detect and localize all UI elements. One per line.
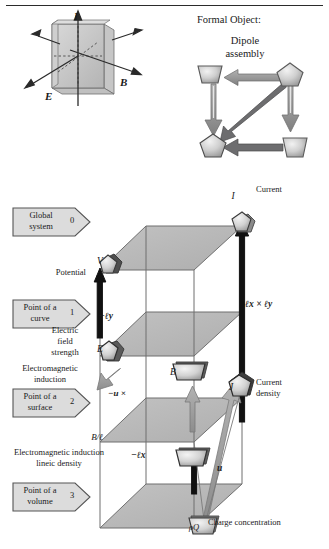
lattice-node-I	[232, 212, 255, 232]
axis-label-B: B	[120, 76, 127, 88]
node-symbol-E: E	[93, 344, 107, 355]
dipole-arrow-top	[224, 70, 283, 86]
caption-current-density-line1: Current	[256, 378, 282, 388]
dipole-arrow-right	[282, 84, 299, 132]
caption-current-density-line2: density	[256, 389, 281, 399]
em-slab-figure	[8, 10, 168, 120]
dipole-node-br	[283, 138, 307, 157]
edge-arrow-E-to-V	[94, 268, 106, 338]
formal-object-heading: Formal Object:	[197, 14, 261, 26]
edge-label-neg-ly: −ℓy	[99, 311, 113, 322]
level-tag-3-line2: volume	[13, 497, 67, 507]
node-symbol-rhoQ: ρQ	[184, 523, 204, 533]
dipole-assembly-figure	[190, 62, 315, 162]
dipole-arrow-left	[205, 84, 222, 136]
node-symbol-B: B	[166, 367, 180, 378]
axis-label-I: I	[74, 11, 78, 22]
edge-label-u: u	[217, 463, 222, 474]
caption-potential: Potential	[28, 268, 86, 278]
edge-arrow-B-to-E	[97, 369, 121, 391]
node-symbol-J: J	[224, 382, 238, 393]
level-tag-1-number: 1	[66, 308, 78, 318]
level-tag-2-line1: Point of a	[13, 392, 67, 402]
lattice-figure	[84, 176, 259, 544]
level-tag-0-number: 0	[66, 216, 78, 226]
edge-label-neg-lx: −ℓx	[131, 450, 146, 461]
caption-em-lineic-line1: Electromagnetic induction	[0, 448, 118, 458]
top-horizontal-rule	[6, 5, 323, 6]
edge-label-neg-u-cross: −u ×	[108, 388, 126, 398]
node-symbol-I: I	[226, 191, 240, 202]
slab-body	[52, 20, 114, 94]
caption-em-lineic-line2: lineic density	[0, 459, 118, 469]
node-symbol-V: V	[93, 256, 107, 267]
dipole-title-line1: Dipole	[197, 35, 293, 47]
level-tag-2-line2: surface	[13, 403, 67, 413]
level-tag-1-line1: Point of a	[13, 303, 67, 313]
axis-B-back	[112, 29, 142, 40]
caption-em-induction-line1: Electromagnetic	[8, 364, 92, 374]
level-tag-1-line2: curve	[13, 314, 67, 324]
edge-label-lx-ly: ℓx × ℓy	[245, 299, 272, 310]
axis-label-E: E	[45, 90, 52, 102]
level-tag-3-line1: Point of a	[13, 486, 67, 496]
level-tag-2-number: 2	[66, 397, 78, 407]
lattice-plane-2	[100, 398, 242, 442]
caption-current: Current	[256, 185, 282, 195]
dipole-arrow-bottom	[223, 139, 283, 156]
level-tag-0-line2: system	[14, 222, 68, 232]
node-symbol-Bl: B/ℓ	[90, 432, 104, 442]
caption-efield-line1: Electric	[42, 326, 88, 336]
lattice-node-Bl	[176, 448, 210, 466]
dipole-node-tr	[277, 63, 303, 86]
level-tag-3-number: 3	[66, 491, 78, 501]
dipole-node-tl	[198, 66, 222, 83]
caption-em-induction-line2: induction	[8, 375, 92, 385]
caption-efield-line3: strength	[42, 348, 88, 358]
level-tag-0-line1: Global	[14, 211, 68, 221]
caption-efield-line2: field	[42, 337, 88, 347]
diagram-canvas: E B I Formal Object: Dipole assembly	[0, 0, 329, 549]
dipole-arrow-diagonal	[220, 83, 287, 142]
dipole-title-line2: assembly	[197, 48, 293, 60]
caption-charge-concentration: Charge concentration	[208, 518, 281, 528]
